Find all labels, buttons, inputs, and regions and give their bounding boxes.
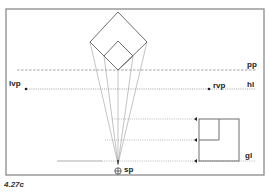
perspective-diagram xyxy=(0,0,269,192)
label-rvp: rvp xyxy=(213,82,225,90)
elevation-inner-square xyxy=(199,119,219,140)
transfer-arrows xyxy=(194,117,197,163)
arrow-icon xyxy=(194,117,197,121)
label-gl: gl xyxy=(245,152,252,160)
station-point-icon xyxy=(115,168,121,174)
inner-square-plan xyxy=(104,41,133,70)
sp-pointer xyxy=(117,160,119,166)
label-hl: hl xyxy=(247,81,254,89)
rvp-point xyxy=(208,88,211,91)
label-lvp: lvp xyxy=(9,80,21,88)
figure-caption: 4.27c xyxy=(4,180,24,189)
visual-rays xyxy=(90,42,147,164)
arrow-icon xyxy=(194,159,197,163)
label-sp: sp xyxy=(124,166,133,174)
arrow-icon xyxy=(194,138,197,142)
label-pp: pp xyxy=(247,61,257,69)
lvp-point xyxy=(25,88,28,91)
